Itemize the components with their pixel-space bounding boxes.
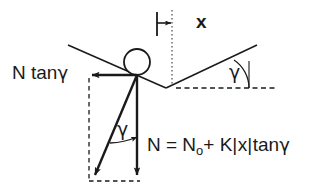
figure-canvas <box>0 0 314 194</box>
displacement-label: x <box>196 12 207 31</box>
horizontal-force-label: N tanγ <box>12 63 68 82</box>
angle-label-right: γ <box>229 62 240 82</box>
angle-label-inner: γ <box>117 119 128 139</box>
gamma-glyph-right: γ <box>229 61 240 83</box>
resultant-force-arrow <box>95 75 137 175</box>
groove-right-slope <box>166 45 257 88</box>
groove-left-slope <box>68 45 166 88</box>
horizontal-force-text: N tan <box>12 62 57 83</box>
gamma-glyph-inner: γ <box>117 118 128 140</box>
gamma-glyph-equation: γ <box>279 134 290 155</box>
gamma-glyph-force: γ <box>57 62 68 83</box>
ball-circle <box>124 49 150 75</box>
force-diagram-figure: N tanγ x γ γ N = No+ K|x|tanγ <box>0 0 314 194</box>
equation-tail: + K <box>203 134 232 155</box>
normal-force-equation: N = No+ K|x|tanγ <box>147 135 290 158</box>
equation-tan: tan <box>253 134 279 155</box>
equation-lead: N = N <box>147 134 196 155</box>
equation-abs-variable: x <box>238 134 248 155</box>
